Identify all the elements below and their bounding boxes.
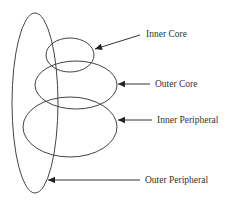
labels-group: Inner Core Outer Core Inner Peripheral O… <box>145 29 219 185</box>
label-inner-peripheral: Inner Peripheral <box>157 115 219 125</box>
ellipse-outer-core <box>35 61 117 109</box>
ellipses-group <box>12 13 117 193</box>
arrow-inner-core <box>95 35 140 49</box>
arrowhead-icon <box>48 177 55 183</box>
nested-ellipse-diagram: Inner Core Outer Core Inner Peripheral O… <box>0 0 235 201</box>
arrowhead-icon <box>118 117 125 123</box>
label-inner-core: Inner Core <box>146 29 187 39</box>
arrowhead-icon <box>95 44 103 50</box>
ellipse-inner-core <box>46 38 94 72</box>
arrows-group <box>48 35 152 183</box>
ellipse-inner-peripheral <box>23 97 117 157</box>
arrowhead-icon <box>118 81 125 87</box>
label-outer-core: Outer Core <box>155 79 197 89</box>
ellipse-outer-peripheral <box>12 13 58 193</box>
label-outer-peripheral: Outer Peripheral <box>145 175 208 185</box>
